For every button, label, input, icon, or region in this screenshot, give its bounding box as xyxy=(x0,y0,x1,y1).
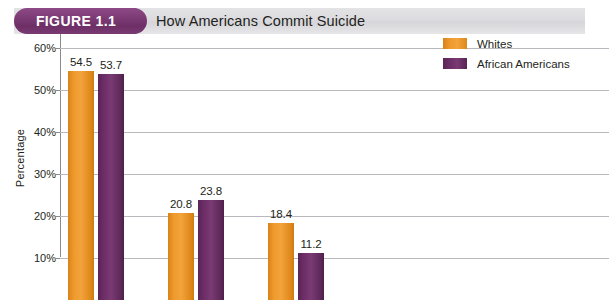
bar xyxy=(68,71,94,300)
bar-value-label: 18.4 xyxy=(270,208,292,220)
bar xyxy=(298,253,324,300)
y-axis-tick-label: 10% xyxy=(22,252,56,264)
bar-value-label: 11.2 xyxy=(300,238,321,250)
y-axis-tick-label: 60% xyxy=(22,42,56,54)
figure-number-badge: FIGURE 1.1 xyxy=(14,8,138,34)
legend-color-swatch xyxy=(443,58,467,69)
y-axis-line xyxy=(60,34,61,257)
legend-item: Whites xyxy=(443,36,593,51)
legend-color-swatch xyxy=(443,38,467,49)
y-axis-tick-label: 30% xyxy=(22,168,56,180)
gridline xyxy=(60,174,609,175)
y-axis-tick-mark xyxy=(55,48,60,49)
legend-item: African Americans xyxy=(443,56,593,71)
y-axis-tick-label: 40% xyxy=(22,126,56,138)
gridline xyxy=(60,258,609,259)
y-axis-tick-mark xyxy=(55,258,60,259)
bar-value-label: 53.7 xyxy=(100,59,122,71)
gridline xyxy=(60,90,609,91)
gridline xyxy=(60,132,609,133)
y-axis-tick-label: 20% xyxy=(22,210,56,222)
legend-label: Whites xyxy=(477,38,512,50)
bar-value-label: 23.8 xyxy=(200,185,222,197)
gridline xyxy=(60,216,609,217)
bar xyxy=(268,223,294,300)
y-axis-tick-label: 50% xyxy=(22,84,56,96)
y-axis-tick-mark xyxy=(55,90,60,91)
figure-title: How Americans Commit Suicide xyxy=(156,8,365,34)
y-axis-tick-labels: 60%50%40%30%20%10% xyxy=(14,34,56,257)
y-axis-tick-mark xyxy=(55,174,60,175)
bar xyxy=(198,200,224,300)
bar-value-label: 20.8 xyxy=(170,198,192,210)
bar-value-label: 54.5 xyxy=(70,56,92,68)
chart-legend: WhitesAfrican Americans xyxy=(443,36,593,76)
bar xyxy=(168,213,194,300)
figure-number-label: FIGURE 1.1 xyxy=(36,13,116,29)
figure-header: FIGURE 1.1 How Americans Commit Suicide xyxy=(14,8,585,34)
legend-label: African Americans xyxy=(477,58,570,70)
y-axis-tick-mark xyxy=(55,132,60,133)
y-axis-tick-mark xyxy=(55,216,60,217)
bar xyxy=(98,74,124,300)
